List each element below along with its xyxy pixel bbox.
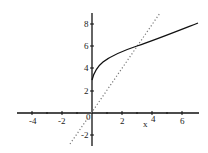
x-tick-label: 4	[151, 114, 156, 124]
x-tick-label: -4	[29, 116, 37, 126]
y-tick-label: -2	[81, 130, 89, 140]
y-tick-label: 8	[84, 19, 89, 29]
x-axis-label: x	[143, 119, 148, 129]
x-tick-label: 6	[180, 116, 185, 126]
x-tick-label: -2	[58, 116, 66, 126]
y-tick-label: 6	[84, 41, 89, 51]
x-tick-label: 2	[120, 116, 125, 126]
solid-curve-series	[92, 23, 198, 80]
y-tick-label: 2	[84, 86, 89, 96]
y-tick-label: 4	[84, 63, 89, 73]
chart: -4 -2 0 2 4 6 x 8 6 4 2 -2	[0, 0, 208, 153]
x-tick-label: 0	[86, 112, 91, 122]
